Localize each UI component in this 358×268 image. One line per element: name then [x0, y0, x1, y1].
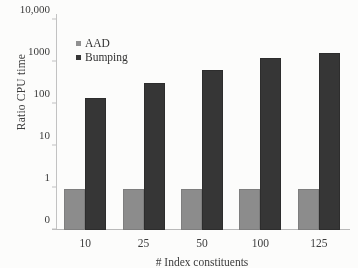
- bar-aad-25: [123, 189, 144, 230]
- legend-label-bumping: Bumping: [85, 50, 128, 64]
- y-axis-tick-10000: 10,000: [20, 4, 50, 15]
- y-axis-title: Ratio CPU time: [15, 27, 27, 157]
- legend-item-bumping: Bumping: [76, 50, 128, 64]
- x-axis-tick-125: 125: [310, 237, 327, 249]
- chart-legend: AAD Bumping: [76, 36, 128, 64]
- bar-aad-50: [181, 189, 202, 230]
- bar-group-100: [231, 20, 289, 230]
- bar-bumping-125: [319, 53, 340, 230]
- x-axis-title: # Index constituents: [56, 256, 348, 268]
- y-axis-tick-10: 10: [39, 130, 50, 141]
- bar-bumping-50: [202, 70, 223, 230]
- legend-swatch-bumping-icon: [76, 55, 81, 60]
- x-axis-tick-100: 100: [252, 237, 269, 249]
- x-axis-tick-50: 50: [196, 237, 208, 249]
- bar-bumping-25: [144, 83, 165, 230]
- bar-group-125: [290, 20, 348, 230]
- bar-group-50: [173, 20, 231, 230]
- bar-aad-100: [239, 189, 260, 230]
- bar-chart-figure: Ratio CPU time 10,00010001001010 1025501…: [0, 0, 358, 268]
- x-axis-tick-10: 10: [79, 237, 91, 249]
- y-axis-tick-100: 100: [34, 88, 51, 99]
- legend-swatch-aad-icon: [76, 41, 81, 46]
- y-axis-tick-1: 1: [45, 172, 51, 183]
- legend-label-aad: AAD: [85, 36, 110, 50]
- y-axis-tick-1000: 1000: [28, 46, 50, 57]
- bar-aad-10: [64, 189, 85, 230]
- y-axis-tick-0: 0: [45, 214, 51, 225]
- bar-bumping-10: [85, 98, 106, 230]
- legend-item-aad: AAD: [76, 36, 128, 50]
- bar-bumping-100: [260, 58, 281, 231]
- x-axis-tick-25: 25: [138, 237, 150, 249]
- bar-aad-125: [298, 189, 319, 230]
